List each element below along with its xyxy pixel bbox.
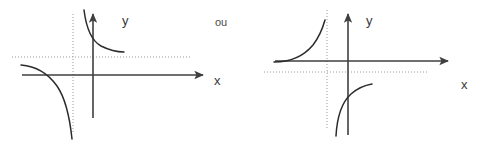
left-graph-lower-left-branch: [21, 65, 72, 139]
right-graph-upper-left-branch: [274, 20, 325, 62]
graphs-canvas: [0, 0, 488, 146]
connector-label-ou: ou: [215, 17, 227, 28]
right-graph-y-axis-label: y: [366, 14, 373, 27]
left-graph-upper-right-branch: [84, 10, 124, 52]
right-graph-x-axis-label: x: [461, 78, 468, 91]
right-graph-lower-right-branch: [336, 84, 372, 136]
function-graph-figure: y x ou y x: [0, 0, 488, 146]
left-graph: [12, 10, 203, 139]
left-graph-x-axis-label: x: [214, 74, 221, 87]
left-graph-y-axis-label: y: [122, 14, 129, 27]
right-graph: [264, 10, 448, 136]
